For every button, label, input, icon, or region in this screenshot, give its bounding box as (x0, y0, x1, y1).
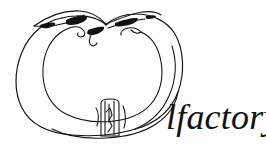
calyx-detail-strokes (96, 99, 125, 136)
wordmark-lfactory: lfactory (166, 97, 266, 137)
logo-canvas: lfactory (0, 0, 266, 155)
